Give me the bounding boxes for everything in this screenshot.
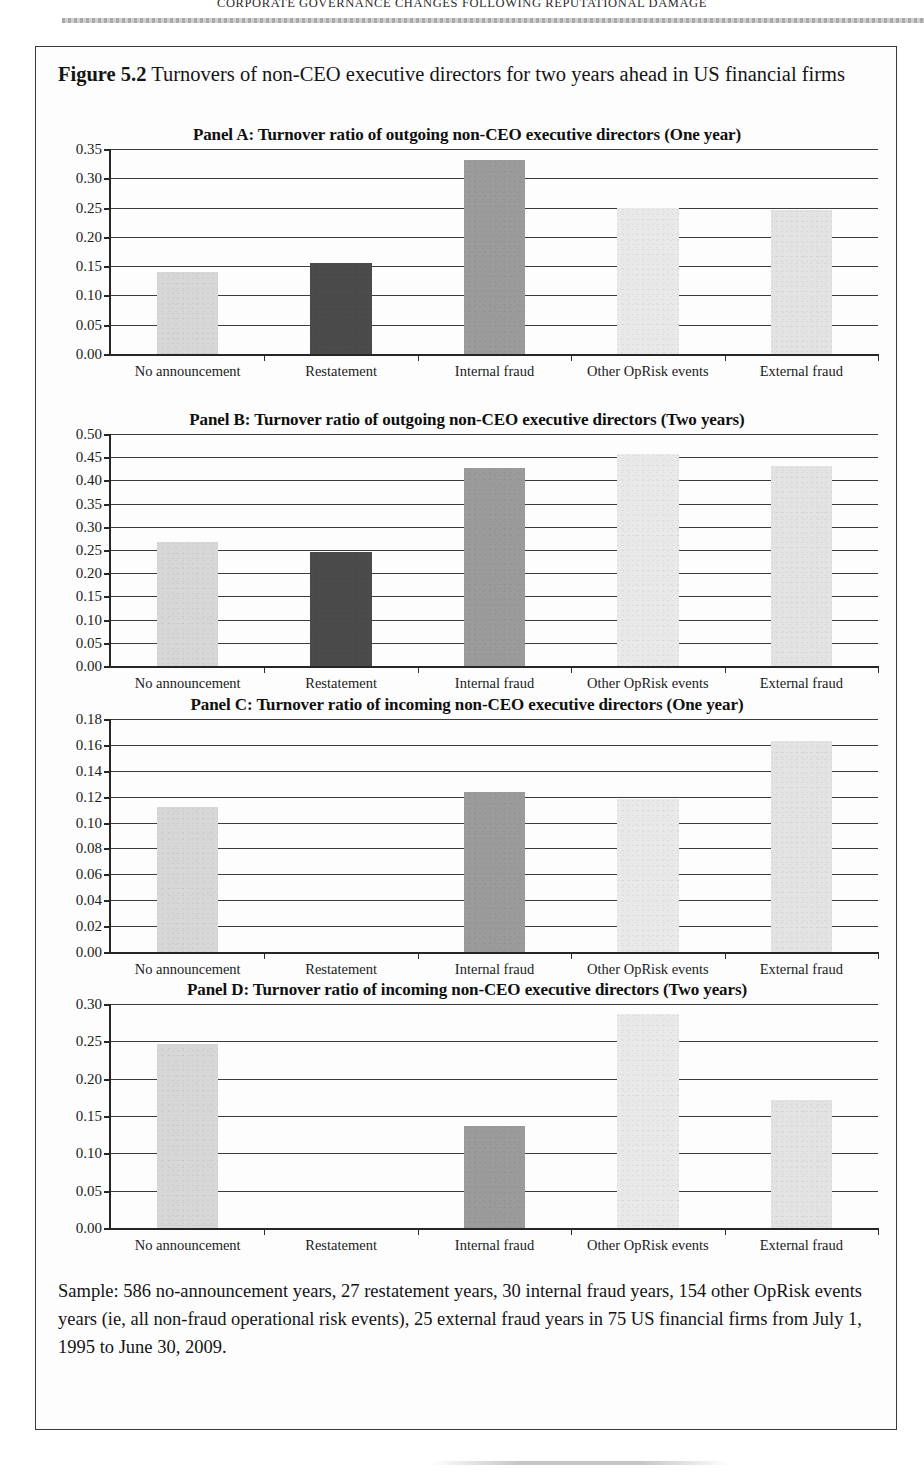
y-tick-label: 0.30 <box>76 996 102 1013</box>
y-tick-mark <box>104 874 111 876</box>
x-tick-label: Other OpRisk events <box>587 1237 709 1254</box>
bar <box>617 1014 678 1228</box>
y-tick-label: 0.50 <box>76 426 102 443</box>
gridline <box>111 1041 878 1042</box>
y-tick-mark <box>104 797 111 799</box>
bar <box>771 210 832 354</box>
gridline <box>111 771 878 772</box>
y-tick-mark <box>104 745 111 747</box>
y-tick-label: 0.08 <box>76 840 102 857</box>
y-tick-mark <box>104 620 111 622</box>
y-tick-label: 0.35 <box>76 141 102 158</box>
y-tick-mark <box>104 823 111 825</box>
x-tick-label: Restatement <box>305 675 377 692</box>
bar <box>157 272 218 354</box>
x-tick-mark <box>878 952 879 959</box>
y-tick-mark <box>104 208 111 210</box>
gridline <box>111 354 878 356</box>
header-rule <box>62 18 924 23</box>
y-tick-mark <box>104 1004 111 1006</box>
y-tick-label: 0.10 <box>76 814 102 831</box>
gridline <box>111 434 878 435</box>
x-tick-label: Restatement <box>305 1237 377 1254</box>
bar <box>617 454 678 666</box>
x-tick-label: External fraud <box>760 675 843 692</box>
x-tick-mark <box>264 1228 265 1235</box>
panel-title-a: Panel A: Turnover ratio of outgoing non-… <box>36 125 898 145</box>
y-tick-mark <box>104 573 111 575</box>
plot-inner: 0.000.050.100.150.200.250.300.35No annou… <box>111 149 878 354</box>
y-tick-label: 0.30 <box>76 170 102 187</box>
y-tick-mark <box>104 1191 111 1193</box>
gridline <box>111 457 878 458</box>
x-tick-label: Other OpRisk events <box>587 675 709 692</box>
x-tick-label: No announcement <box>135 1237 241 1254</box>
y-tick-label: 0.25 <box>76 542 102 559</box>
x-tick-mark <box>725 666 726 673</box>
plot-area-c: 0.000.020.040.060.080.100.120.140.160.18… <box>109 719 878 952</box>
y-tick-mark <box>104 354 111 356</box>
x-tick-label: Restatement <box>305 363 377 380</box>
y-tick-mark <box>104 325 111 327</box>
bar <box>310 263 371 354</box>
x-tick-mark <box>725 1228 726 1235</box>
x-tick-label: No announcement <box>135 961 241 978</box>
gridline <box>111 1228 878 1230</box>
bar <box>464 792 525 953</box>
x-tick-mark <box>571 1228 572 1235</box>
y-tick-mark <box>104 1116 111 1118</box>
x-tick-label: External fraud <box>760 961 843 978</box>
y-tick-label: 0.10 <box>76 611 102 628</box>
y-tick-label: 0.30 <box>76 518 102 535</box>
y-tick-label: 0.06 <box>76 866 102 883</box>
sample-note: Sample: 586 no-announcement years, 27 re… <box>58 1277 878 1361</box>
y-tick-label: 0.05 <box>76 316 102 333</box>
x-tick-mark <box>571 952 572 959</box>
bar <box>771 1100 832 1228</box>
figure-box: Figure 5.2 Turnovers of non-CEO executiv… <box>35 46 897 1430</box>
y-tick-mark <box>104 1041 111 1043</box>
y-tick-mark <box>104 643 111 645</box>
y-tick-mark <box>104 149 111 151</box>
figure-number: Figure 5.2 <box>58 63 146 85</box>
bar <box>464 1126 525 1228</box>
page-smudge <box>430 1461 730 1465</box>
gridline <box>111 1004 878 1005</box>
y-tick-mark <box>104 237 111 239</box>
y-tick-mark <box>104 480 111 482</box>
y-tick-label: 0.45 <box>76 449 102 466</box>
bar <box>617 799 678 952</box>
x-tick-mark <box>264 666 265 673</box>
y-tick-mark <box>104 926 111 928</box>
bar <box>464 160 525 354</box>
y-tick-mark <box>104 266 111 268</box>
y-tick-label: 0.25 <box>76 199 102 216</box>
x-tick-mark <box>264 354 265 361</box>
panel-title-b: Panel B: Turnover ratio of outgoing non-… <box>36 410 898 430</box>
x-tick-label: Internal fraud <box>455 961 534 978</box>
gridline <box>111 1116 878 1117</box>
plot-inner: 0.000.020.040.060.080.100.120.140.160.18… <box>111 719 878 952</box>
y-tick-label: 0.00 <box>76 658 102 675</box>
y-tick-mark <box>104 527 111 529</box>
y-tick-label: 0.02 <box>76 918 102 935</box>
y-tick-mark <box>104 952 111 954</box>
bar <box>157 807 218 952</box>
y-tick-label: 0.15 <box>76 1108 102 1125</box>
x-tick-label: Internal fraud <box>455 1237 534 1254</box>
x-tick-label: External fraud <box>760 1237 843 1254</box>
x-tick-mark <box>571 666 572 673</box>
gridline <box>111 1079 878 1080</box>
running-header: CORPORATE GOVERNANCE CHANGES FOLLOWING R… <box>0 0 924 14</box>
y-tick-label: 0.40 <box>76 472 102 489</box>
x-tick-label: External fraud <box>760 363 843 380</box>
x-tick-mark <box>878 354 879 361</box>
y-tick-label: 0.20 <box>76 565 102 582</box>
y-tick-label: 0.12 <box>76 788 102 805</box>
y-tick-mark <box>104 719 111 721</box>
figure-caption-text: Turnovers of non-CEO executive directors… <box>151 63 845 85</box>
y-tick-mark <box>104 900 111 902</box>
gridline <box>111 149 878 150</box>
plot-inner: 0.000.050.100.150.200.250.300.350.400.45… <box>111 434 878 666</box>
y-tick-label: 0.18 <box>76 711 102 728</box>
